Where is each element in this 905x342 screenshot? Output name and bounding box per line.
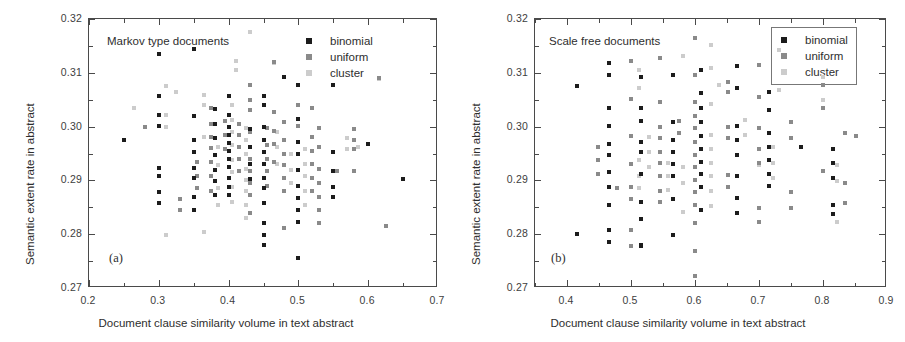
data-point-binomial (262, 221, 266, 225)
data-point-uniform (757, 206, 761, 210)
x-tick-label: 0.4 (213, 294, 243, 306)
data-point-cluster (244, 126, 248, 130)
y-tick-label: 0.31 (48, 66, 82, 78)
data-point-cluster (216, 163, 220, 167)
data-point-cluster (230, 200, 234, 204)
data-point-uniform (352, 138, 356, 142)
data-point-cluster (164, 84, 168, 88)
data-point-binomial (213, 168, 217, 172)
x-tick-label: 0.7 (743, 294, 773, 306)
x-tick-top (368, 19, 369, 25)
data-point-cluster (835, 163, 839, 167)
data-point-binomial (699, 160, 703, 164)
data-point-binomial (671, 162, 675, 166)
y-tick-right (879, 180, 885, 181)
data-point-uniform (272, 160, 276, 164)
y-tick (89, 234, 95, 235)
data-point-binomial (639, 244, 643, 248)
data-point-cluster (709, 189, 713, 193)
data-point-binomial (671, 233, 675, 237)
data-point-binomial (639, 217, 643, 221)
legend-entry-binomial: binomial (302, 33, 373, 49)
y-tick-label: 0.30 (48, 120, 82, 132)
data-point-cluster (771, 145, 775, 149)
data-point-binomial (767, 145, 771, 149)
data-point-cluster (216, 186, 220, 190)
x-tick (159, 280, 160, 286)
data-point-cluster (637, 68, 641, 72)
data-point-binomial (331, 185, 335, 189)
data-point-binomial (192, 166, 196, 170)
data-point-cluster (345, 147, 349, 151)
data-point-cluster (637, 158, 641, 162)
x-tick-label: 0.3 (143, 294, 173, 306)
legend-label-uniform: uniform (805, 50, 843, 62)
data-point-binomial (192, 138, 196, 142)
data-point-uniform (693, 140, 697, 144)
x-tick (89, 280, 90, 286)
data-point-binomial (227, 94, 231, 98)
data-point-binomial (248, 127, 252, 131)
data-point-binomial (671, 197, 675, 201)
data-point-binomial (639, 140, 643, 144)
x-tick (264, 283, 265, 287)
legend-swatch-binomial-icon (781, 37, 787, 43)
y-tick (89, 127, 95, 128)
x-tick (663, 283, 664, 287)
data-point-uniform (843, 181, 847, 185)
data-point-cluster (303, 174, 307, 178)
data-point-cluster (234, 59, 238, 63)
data-point-cluster (244, 216, 248, 220)
data-point-cluster (244, 152, 248, 156)
y-tick-right (430, 234, 436, 235)
data-point-binomial (671, 150, 675, 154)
data-point-uniform (310, 149, 314, 153)
data-point-binomial (831, 147, 835, 151)
data-point-binomial (331, 150, 335, 154)
data-point-binomial (296, 184, 300, 188)
data-point-binomial (767, 184, 771, 188)
y-tick-right (430, 19, 436, 20)
data-point-cluster (777, 88, 781, 92)
data-point-cluster (345, 136, 349, 140)
plot-area-b: Scale free documents (b) binomial unifor… (534, 18, 886, 287)
data-point-binomial (248, 162, 252, 166)
data-point-uniform (629, 228, 633, 232)
data-point-uniform (265, 157, 269, 161)
data-point-uniform (615, 186, 619, 190)
x-tick-label: 0.9 (871, 294, 901, 306)
data-point-uniform (821, 169, 825, 173)
data-point-uniform (248, 108, 252, 112)
data-point-uniform (596, 158, 600, 162)
data-point-binomial (227, 125, 231, 129)
data-point-binomial (296, 196, 300, 200)
data-point-uniform (282, 152, 286, 156)
data-point-binomial (607, 124, 611, 128)
data-point-cluster (666, 161, 670, 165)
data-point-uniform (693, 36, 697, 40)
data-point-cluster (647, 150, 651, 154)
data-point-cluster (164, 125, 168, 129)
data-point-uniform (310, 189, 314, 193)
x-tick (368, 280, 369, 286)
data-point-cluster (821, 98, 825, 102)
data-point-binomial (366, 142, 370, 146)
x-tick-top (159, 19, 160, 25)
data-point-uniform (352, 169, 356, 173)
data-point-cluster (743, 133, 747, 137)
data-point-uniform (658, 161, 662, 165)
data-point-binomial (735, 153, 739, 157)
data-point-uniform (209, 189, 213, 193)
y-tick-right (879, 19, 885, 20)
data-point-binomial (699, 185, 703, 189)
y-tick (535, 207, 539, 208)
data-point-cluster (275, 145, 279, 149)
x-tick-top (535, 19, 536, 23)
data-point-binomial (575, 232, 579, 236)
x-tick-top (791, 19, 792, 23)
data-point-binomial (122, 138, 126, 142)
data-point-uniform (757, 95, 761, 99)
data-point-uniform (693, 203, 697, 207)
data-point-uniform (352, 127, 356, 131)
legend-swatch-cluster-icon (306, 70, 312, 76)
